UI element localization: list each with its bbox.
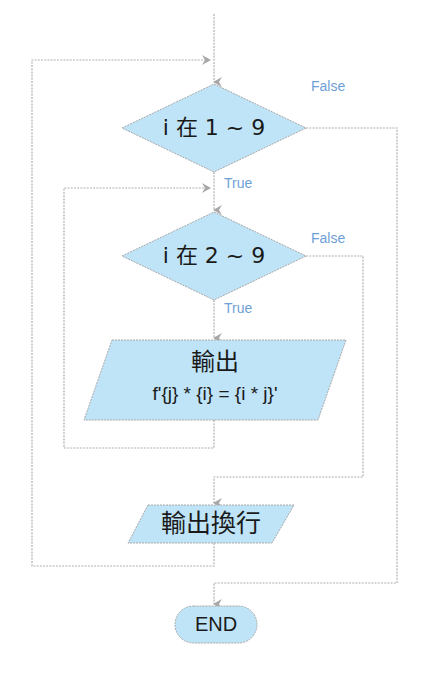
print-newline-text: 輸出換行: [128, 506, 294, 542]
outer-condition-text: i 在 1 ~ 9: [122, 113, 306, 143]
outer-true-label: True: [224, 175, 252, 191]
print-product-line2: f'{j} * {i} = {i * j}': [84, 380, 346, 408]
inner-condition-text: i 在 2 ~ 9: [122, 241, 306, 271]
print-product-line1: 輸出: [84, 346, 346, 378]
inner-false-label: False: [311, 230, 345, 246]
inner-true-label: True: [224, 300, 252, 316]
end-text: END: [175, 609, 257, 639]
flowchart-canvas: [0, 0, 426, 675]
outer-false-label: False: [311, 78, 345, 94]
